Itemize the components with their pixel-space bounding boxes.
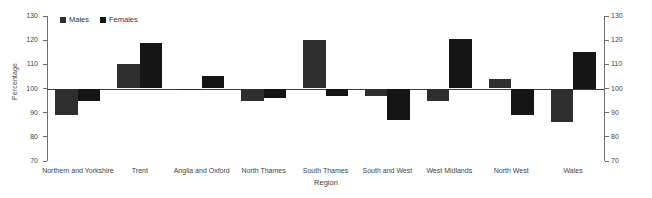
y-tick-label-130: 130 (611, 12, 633, 19)
bar-females-5 (387, 89, 410, 120)
y-tick-label-100: 100 (611, 85, 633, 92)
bar-chart: Percentage Region 708090100110120130 708… (0, 0, 652, 198)
bar-females-2 (202, 76, 225, 88)
y-tick-label-70: 70 (611, 157, 633, 164)
y-tick-label-70: 70 (16, 157, 38, 164)
plot-area (47, 16, 604, 161)
x-category-label-8: Wales (536, 166, 610, 175)
y-tick-120 (605, 40, 609, 41)
y-tick-label-90: 90 (16, 109, 38, 116)
bar-males-8 (551, 89, 574, 123)
y-tick-100 (605, 88, 609, 89)
y-tick-label-120: 120 (611, 36, 633, 43)
bar-females-1 (140, 43, 163, 89)
bar-females-6 (449, 39, 472, 89)
y-axis-title: Percentage (11, 47, 18, 117)
y-tick-label-80: 80 (611, 133, 633, 140)
y-tick-label-80: 80 (16, 133, 38, 140)
bar-males-2 (179, 89, 202, 90)
y-tick-label-110: 110 (611, 60, 633, 67)
bar-females-8 (573, 52, 596, 88)
y-tick-110 (605, 64, 609, 65)
x-axis-title: Region (0, 178, 652, 187)
bar-females-3 (264, 89, 287, 99)
bar-females-0 (78, 89, 101, 101)
y-tick-label-110: 110 (16, 60, 38, 67)
y-tick-80 (605, 136, 609, 137)
bar-males-1 (117, 64, 140, 88)
y-tick-label-120: 120 (16, 36, 38, 43)
bar-females-7 (511, 89, 534, 116)
bar-males-7 (489, 79, 512, 89)
bar-males-0 (55, 89, 78, 116)
bar-males-3 (241, 89, 264, 101)
y-tick-label-100: 100 (16, 85, 38, 92)
y-tick-label-90: 90 (611, 109, 633, 116)
y-tick-70 (605, 161, 609, 162)
bar-males-5 (365, 89, 388, 96)
bar-females-4 (326, 89, 349, 96)
y-tick-90 (605, 112, 609, 113)
bar-males-4 (303, 40, 326, 88)
y-tick-label-130: 130 (16, 12, 38, 19)
y-tick-130 (605, 16, 609, 17)
bar-males-6 (427, 89, 450, 101)
